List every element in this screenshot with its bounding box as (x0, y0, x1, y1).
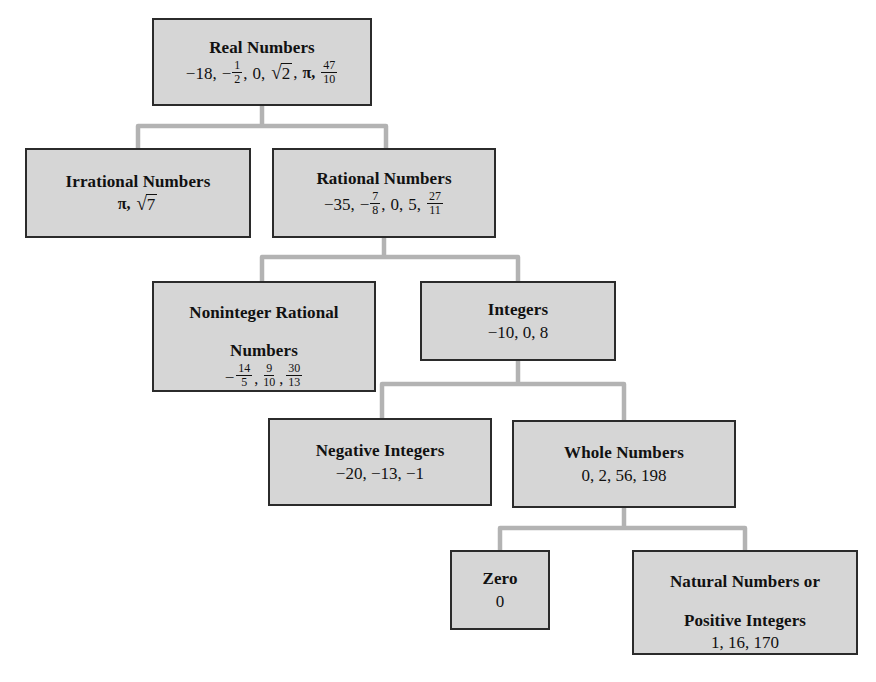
natural-title-line-2: Positive Integers (684, 611, 806, 630)
node-examples-whole-numbers: 0, 2, 56, 198 (582, 466, 667, 485)
node-examples-integers: −10, 0, 8 (488, 323, 549, 342)
value-sqrt-7: √7 (135, 194, 158, 215)
node-irrational-numbers[interactable]: Irrational Numbers π, √7 (25, 148, 251, 238)
sqrt-icon: √7 (136, 194, 157, 215)
minus-sign: − (222, 64, 232, 83)
fraction-27-11: 2711 (427, 190, 443, 215)
value-five: 5, (408, 195, 421, 214)
node-examples-real-numbers: −18, −12, 0, √2, π, 4710 (186, 60, 338, 85)
value-zero: 0, (391, 195, 404, 214)
node-examples-natural-numbers: 1, 16, 170 (711, 633, 779, 652)
minus-sign: − (225, 368, 235, 387)
value-neg-one-half: −12, (222, 60, 248, 85)
edge-real-to-children (138, 105, 386, 148)
node-examples-rational-numbers: −35, −78, 0, 5, 2711 (324, 191, 444, 216)
node-negative-integers[interactable]: Negative Integers −20, −13, −1 (268, 418, 492, 506)
node-rational-numbers[interactable]: Rational Numbers −35, −78, 0, 5, 2711 (272, 148, 496, 238)
fraction-9-10: 910 (261, 362, 277, 387)
node-title-zero: Zero (482, 569, 517, 588)
natural-title-line-1: Natural Numbers or (670, 572, 820, 591)
value-zero: 0, (252, 64, 265, 83)
sqrt-icon: √2 (271, 63, 292, 84)
fraction-one-half: 12 (232, 59, 242, 84)
node-examples-noninteger-rational-numbers: −145,910,3013 (225, 363, 304, 388)
comma-1: , (254, 370, 258, 389)
noninteger-title-line-1: Noninteger Rational (189, 303, 338, 322)
edge-integers-to-children (382, 361, 624, 420)
node-title-irrational-numbers: Irrational Numbers (66, 172, 211, 191)
node-examples-zero: 0 (496, 592, 505, 611)
fraction-30-13: 3013 (286, 362, 302, 387)
value-pi: π, (118, 195, 131, 213)
comma-after-78: , (381, 195, 385, 214)
edge-whole-to-children (500, 508, 745, 550)
value-pi: π, (302, 64, 315, 82)
node-title-rational-numbers: Rational Numbers (316, 169, 451, 188)
fraction-14-5: 145 (236, 362, 252, 387)
node-integers[interactable]: Integers −10, 0, 8 (420, 281, 616, 361)
value-27-over-11: 2711 (426, 191, 444, 216)
number-system-diagram: Real Numbers −18, −12, 0, √2, π, 4710 Ir… (0, 0, 876, 682)
noninteger-title-line-2: Numbers (230, 341, 298, 360)
comma-after-sqrt2: , (293, 63, 297, 82)
value-sqrt-2: √2, (270, 63, 297, 84)
node-title-noninteger-rational-numbers: Noninteger Rational Numbers (189, 284, 338, 360)
value-neg-18: −18, (186, 64, 217, 83)
node-examples-irrational-numbers: π, √7 (118, 194, 159, 215)
node-title-natural-numbers: Natural Numbers or Positive Integers (670, 553, 820, 629)
noninteger-fraction-row: −145,910,3013 (225, 363, 304, 388)
node-title-integers: Integers (488, 300, 548, 319)
edge-rational-to-children (262, 238, 518, 281)
value-47-over-10: 4710 (320, 60, 338, 85)
node-real-numbers[interactable]: Real Numbers −18, −12, 0, √2, π, 4710 (152, 18, 372, 106)
node-zero[interactable]: Zero 0 (450, 550, 550, 630)
minus-sign: − (360, 195, 370, 214)
node-title-negative-integers: Negative Integers (316, 441, 445, 460)
value-neg-35: −35, (324, 195, 355, 214)
value-neg-seven-eighths: −78, (360, 191, 386, 216)
node-examples-negative-integers: −20, −13, −1 (336, 464, 424, 483)
fraction-7-8: 78 (370, 190, 380, 215)
node-whole-numbers[interactable]: Whole Numbers 0, 2, 56, 198 (512, 420, 736, 508)
fraction-47-10: 4710 (321, 59, 337, 84)
node-title-whole-numbers: Whole Numbers (564, 443, 684, 462)
node-title-real-numbers: Real Numbers (209, 38, 315, 57)
comma-2: , (279, 370, 283, 389)
comma-after-half: , (243, 64, 247, 83)
node-noninteger-rational-numbers[interactable]: Noninteger Rational Numbers −145,910,301… (152, 281, 376, 392)
node-natural-numbers[interactable]: Natural Numbers or Positive Integers 1, … (632, 550, 858, 655)
